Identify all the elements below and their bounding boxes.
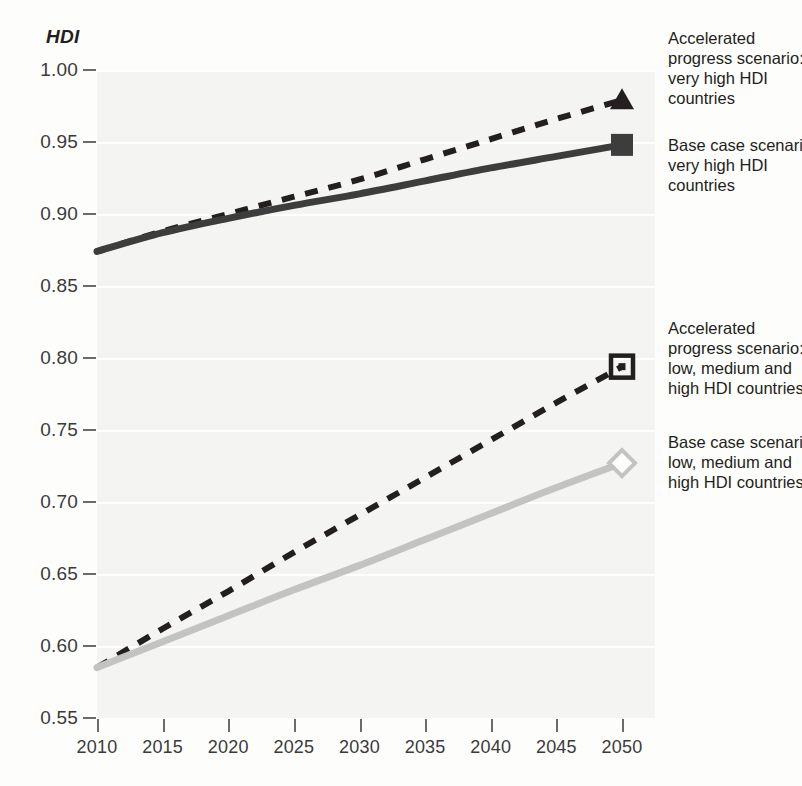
legend-entry: Acceleratedprogress scenario:very high H…	[668, 28, 800, 109]
gridline	[97, 574, 655, 576]
x-tick-mark	[622, 719, 624, 732]
legend-label-line: Accelerated	[668, 28, 800, 48]
y-tick-mark	[83, 213, 96, 215]
legend-label-line: low, medium and	[668, 358, 800, 378]
x-tick-mark	[97, 719, 99, 732]
legend-label-line: very high HDI	[668, 155, 800, 175]
legend-label-line: progress scenario:	[668, 48, 800, 68]
legend-label-line: Base case scenario:	[668, 432, 800, 452]
legend-label-line: countries	[668, 175, 800, 195]
y-tick-label: 0.80	[18, 347, 78, 369]
y-tick-mark	[83, 645, 96, 647]
y-tick-mark	[83, 429, 96, 431]
y-tick-label: 0.65	[18, 563, 78, 585]
y-tick-label: 0.85	[18, 275, 78, 297]
y-tick-mark	[83, 357, 96, 359]
x-tick-label: 2020	[193, 737, 263, 758]
legend-label-line: high HDI countries	[668, 378, 800, 398]
y-tick-label: 0.70	[18, 491, 78, 513]
y-tick-label: 0.90	[18, 203, 78, 225]
legend-label-line: very high HDI	[668, 68, 800, 88]
y-tick-mark	[83, 501, 96, 503]
y-tick-mark	[83, 573, 96, 575]
hdi-projection-chart: HDI 0.550.600.650.700.750.800.850.900.95…	[0, 0, 802, 786]
x-tick-label: 2035	[390, 737, 460, 758]
gridline	[97, 70, 655, 72]
legend-entry: Acceleratedprogress scenario:low, medium…	[668, 318, 800, 399]
y-tick-label: 1.00	[18, 59, 78, 81]
x-tick-mark	[228, 719, 230, 732]
gridline	[97, 430, 655, 432]
plot-area	[97, 70, 655, 718]
x-tick-mark	[294, 719, 296, 732]
x-tick-mark	[360, 719, 362, 732]
x-tick-label: 2015	[128, 737, 198, 758]
x-tick-label: 2025	[259, 737, 329, 758]
legend-label-line: progress scenario:	[668, 338, 800, 358]
y-tick-label: 0.75	[18, 419, 78, 441]
y-tick-mark	[83, 285, 96, 287]
x-tick-label: 2045	[521, 737, 591, 758]
gridline	[97, 358, 655, 360]
y-tick-mark	[83, 717, 96, 719]
legend-entry: Base case scenario:low, medium andhigh H…	[668, 432, 800, 492]
gridline	[97, 646, 655, 648]
gridline	[97, 142, 655, 144]
gridline	[97, 286, 655, 288]
y-axis-title: HDI	[46, 26, 80, 48]
legend-label-line: Accelerated	[668, 318, 800, 338]
legend-entry: Base case scenario:very high HDIcountrie…	[668, 135, 800, 195]
y-tick-label: 0.95	[18, 131, 78, 153]
x-tick-mark	[163, 719, 165, 732]
y-tick-label: 0.60	[18, 635, 78, 657]
legend-label-line: countries	[668, 88, 800, 108]
x-tick-mark	[425, 719, 427, 732]
x-tick-label: 2010	[62, 737, 132, 758]
x-tick-mark	[556, 719, 558, 732]
y-tick-mark	[83, 69, 96, 71]
gridline	[97, 502, 655, 504]
x-tick-mark	[491, 719, 493, 732]
y-tick-label: 0.55	[18, 707, 78, 729]
y-tick-mark	[83, 141, 96, 143]
gridline	[97, 214, 655, 216]
x-tick-label: 2040	[456, 737, 526, 758]
legend-label-line: Base case scenario:	[668, 135, 800, 155]
legend-label-line: low, medium and	[668, 452, 800, 472]
legend-label-line: high HDI countries	[668, 472, 800, 492]
x-tick-label: 2030	[325, 737, 395, 758]
x-tick-label: 2050	[587, 737, 657, 758]
